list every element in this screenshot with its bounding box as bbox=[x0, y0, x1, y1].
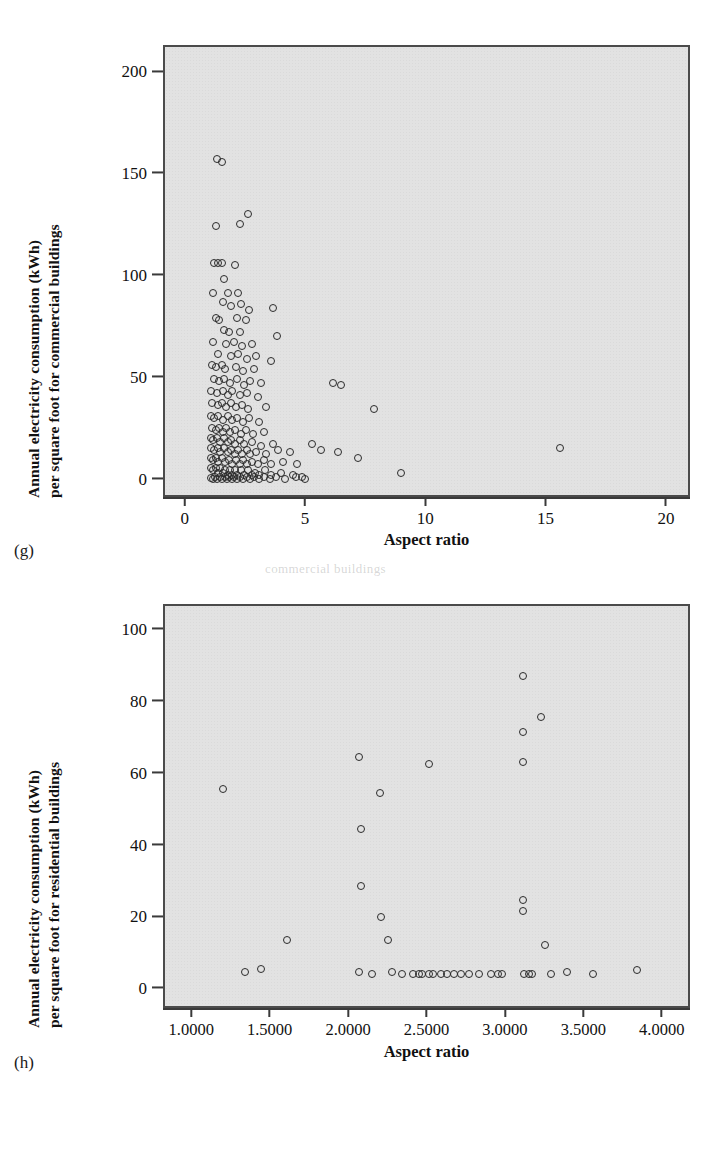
data-point bbox=[230, 338, 238, 346]
data-point bbox=[425, 760, 433, 768]
data-point bbox=[254, 393, 262, 401]
y-tick-label: 40 bbox=[130, 834, 163, 855]
data-point bbox=[252, 448, 260, 456]
y-axis-title-h: Annual electricity consumption (kWh) per… bbox=[24, 762, 64, 1028]
data-point bbox=[537, 713, 545, 721]
data-point bbox=[528, 970, 536, 978]
data-point bbox=[370, 405, 378, 413]
x-tick-label: 10 bbox=[417, 497, 434, 529]
data-point bbox=[519, 907, 527, 915]
data-point bbox=[337, 381, 345, 389]
y-axis-title-g-line2: per square foot for commercial buildings bbox=[44, 224, 64, 498]
scatter-plot-residential bbox=[163, 604, 690, 1008]
data-point bbox=[243, 355, 251, 363]
data-point bbox=[589, 970, 597, 978]
data-point bbox=[233, 314, 241, 322]
figure-page: Annual electricity consumption (kWh) per… bbox=[0, 0, 725, 1168]
data-point bbox=[257, 965, 265, 973]
data-point bbox=[279, 458, 287, 466]
data-point bbox=[214, 350, 222, 358]
data-point bbox=[384, 936, 392, 944]
y-tick-label: 50 bbox=[130, 366, 163, 387]
data-point bbox=[301, 475, 309, 483]
data-point bbox=[541, 941, 549, 949]
data-point bbox=[218, 259, 226, 267]
data-point bbox=[357, 825, 365, 833]
y-axis-title-g: Annual electricity consumption (kWh) per… bbox=[24, 224, 64, 498]
data-point bbox=[234, 289, 242, 297]
data-point bbox=[283, 936, 291, 944]
data-point bbox=[257, 379, 265, 387]
y-tick-label: 0 bbox=[139, 468, 164, 489]
data-point bbox=[245, 414, 253, 422]
y-tick-label: 20 bbox=[130, 906, 163, 927]
data-point bbox=[238, 342, 246, 350]
data-point bbox=[355, 968, 363, 976]
data-point bbox=[245, 306, 253, 314]
x-tick-label: 2.5000 bbox=[404, 1008, 449, 1040]
y-axis-title-h-line2: per square foot for residential building… bbox=[44, 762, 64, 1028]
data-point bbox=[250, 365, 258, 373]
x-tick-label: 0 bbox=[180, 497, 189, 529]
data-point bbox=[218, 158, 226, 166]
data-point bbox=[215, 316, 223, 324]
data-point bbox=[292, 473, 300, 481]
data-point bbox=[388, 968, 396, 976]
data-point bbox=[633, 966, 641, 974]
x-tick-label: 1.0000 bbox=[169, 1008, 214, 1040]
x-tick-label: 20 bbox=[657, 497, 674, 529]
y-tick-label: 150 bbox=[122, 163, 164, 184]
data-point bbox=[224, 289, 232, 297]
data-point bbox=[252, 352, 260, 360]
x-tick-label: 3.5000 bbox=[561, 1008, 606, 1040]
data-point bbox=[221, 365, 229, 373]
data-point bbox=[219, 298, 227, 306]
y-tick-label: 100 bbox=[122, 265, 164, 286]
figure-h: Annual electricity consumption (kWh) per… bbox=[0, 580, 725, 1168]
scatter-plot-commercial bbox=[163, 45, 690, 497]
data-point bbox=[556, 444, 564, 452]
panel-label-g: (g) bbox=[14, 541, 34, 561]
data-point bbox=[236, 328, 244, 336]
data-point bbox=[519, 728, 527, 736]
data-point bbox=[262, 403, 270, 411]
data-point bbox=[241, 968, 249, 976]
data-point bbox=[209, 289, 217, 297]
data-point bbox=[225, 328, 233, 336]
data-point bbox=[231, 261, 239, 269]
data-point bbox=[519, 758, 527, 766]
data-point bbox=[397, 469, 405, 477]
data-point bbox=[243, 389, 251, 397]
data-point bbox=[519, 896, 527, 904]
data-point bbox=[239, 367, 247, 375]
data-point bbox=[281, 475, 289, 483]
data-point bbox=[357, 882, 365, 890]
data-point bbox=[398, 970, 406, 978]
data-point bbox=[260, 428, 268, 436]
data-point bbox=[429, 970, 437, 978]
data-point bbox=[286, 448, 294, 456]
y-tick-label: 80 bbox=[130, 690, 163, 711]
y-axis-title-g-line1: Annual electricity consumption (kWh) bbox=[24, 224, 44, 498]
data-point bbox=[273, 332, 281, 340]
data-point bbox=[249, 430, 257, 438]
data-point bbox=[377, 913, 385, 921]
data-point bbox=[465, 970, 473, 978]
x-tick-label: 2.0000 bbox=[325, 1008, 370, 1040]
data-point bbox=[209, 338, 217, 346]
data-point bbox=[244, 405, 252, 413]
data-point bbox=[498, 970, 506, 978]
data-point bbox=[255, 418, 263, 426]
data-point bbox=[242, 316, 250, 324]
data-point bbox=[227, 302, 235, 310]
data-point bbox=[219, 785, 227, 793]
data-point bbox=[308, 440, 316, 448]
data-point bbox=[237, 300, 245, 308]
data-point bbox=[475, 970, 483, 978]
data-point bbox=[563, 968, 571, 976]
data-point bbox=[457, 970, 465, 978]
data-point bbox=[269, 304, 277, 312]
data-point bbox=[519, 672, 527, 680]
y-tick-label: 0 bbox=[139, 978, 164, 999]
x-tick-label: 5 bbox=[301, 497, 310, 529]
